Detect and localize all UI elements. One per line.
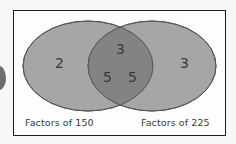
intersection-element: 5: [103, 69, 112, 85]
set-b-only-element: 3: [180, 55, 189, 71]
intersection-element: 3: [116, 41, 125, 57]
set-a-label: Factors of 150: [25, 117, 94, 128]
set-a-only-element: 2: [55, 55, 64, 71]
set-b-label: Factors of 225: [141, 117, 210, 128]
intersection-element: 5: [128, 69, 137, 85]
